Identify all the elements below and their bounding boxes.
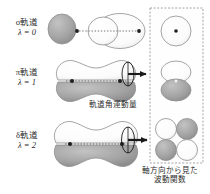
- sigma-axial-view: [161, 16, 191, 46]
- axial-wavefunction-caption: 軸方向から見た 波動関数: [132, 166, 208, 184]
- pi-row-label: π軌道 λ = 1: [4, 68, 50, 87]
- sigma-nucleus-left: [75, 29, 79, 33]
- delta-lambda-label: λ = 2: [4, 141, 50, 151]
- sigma-row-label: σ軌道 λ = 0: [4, 18, 50, 37]
- pi-axial-center-dot: [175, 80, 178, 83]
- sigma-axial-center-dot: [174, 29, 178, 33]
- delta-axial-circle-tr: [177, 119, 198, 140]
- axial-view-panel: [150, 8, 203, 163]
- pi-lobe-upper-positive: [56, 60, 135, 80]
- sigma-nucleus-right: [137, 29, 141, 33]
- delta-lobe-lower-negative: [54, 145, 137, 166]
- pi-nucleus-right: [118, 79, 122, 83]
- angular-momentum-caption: 軌道角運動量: [80, 100, 146, 109]
- delta-nucleus-left: [68, 142, 72, 146]
- pi-nucleus-left: [70, 79, 74, 83]
- delta-axial-circle-tl: [156, 119, 177, 140]
- delta-axial-circle-bl: [156, 140, 177, 161]
- delta-axial-circle-br: [177, 140, 198, 161]
- axial-caption-line2: 波動関数: [154, 175, 186, 184]
- orbital-angular-momentum-figure: σ軌道 λ = 0 π軌道 λ = 1 δ軌道 λ = 2 軌道角運動量 軸方向…: [0, 0, 210, 194]
- delta-lobe-upper-positive: [54, 122, 137, 143]
- sigma-side-view: [48, 14, 145, 49]
- sigma-lobe-negative: [48, 14, 76, 44]
- pi-lobe-lower-negative: [56, 82, 135, 102]
- sigma-lambda-label: λ = 0: [4, 28, 50, 38]
- pi-lambda-label: λ = 1: [4, 78, 50, 88]
- delta-row-label: δ軌道 λ = 2: [4, 131, 50, 150]
- delta-axial-center-dot: [175, 138, 178, 141]
- axial-caption-line1: 軸方向から見た: [142, 166, 198, 175]
